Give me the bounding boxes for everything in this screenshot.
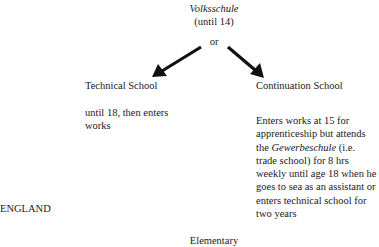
- elementary-node-title: Elementary: [164, 235, 264, 246]
- description-part-3: weekly until age 18 when he goes to sea …: [256, 168, 376, 219]
- continuation-school-title: Continuation School: [256, 80, 343, 91]
- continuation-school-description: Enters works at 15 for apprenticeship bu…: [256, 114, 378, 220]
- left-arrow-icon: [152, 47, 201, 77]
- gewerbeschule-term: Gewerbeschule: [271, 142, 336, 153]
- technical-school-title: Technical School: [85, 80, 157, 91]
- england-section-label: ENGLAND: [0, 203, 51, 214]
- right-arrow-icon: [228, 47, 264, 78]
- technical-school-description: until 18, then enters works: [85, 106, 193, 133]
